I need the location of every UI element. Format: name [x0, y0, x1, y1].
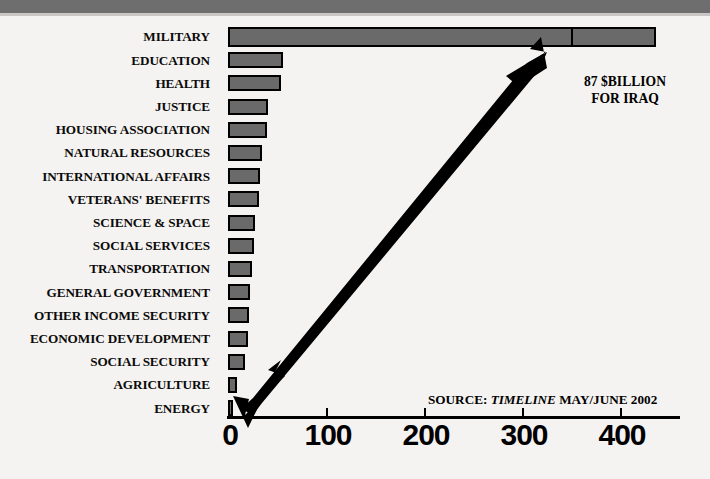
bar-category-label: JUSTICE — [0, 100, 218, 113]
bar-category-label: SCIENCE & SPACE — [0, 216, 218, 229]
bar-category-label: TRANSPORTATION — [0, 262, 218, 275]
bar-category-label: OTHER INCOME SECURITY — [0, 309, 218, 322]
bar-row: ECONOMIC DEVELOPMENT — [0, 328, 710, 350]
bar-transportation — [228, 261, 252, 277]
source-note: SOURCE: TIMELINE MAY/JUNE 2002 — [428, 392, 657, 408]
x-axis-tick — [424, 408, 426, 417]
bar-track — [218, 212, 710, 234]
bar-category-label: GENERAL GOVERNMENT — [0, 286, 218, 299]
bar-track — [218, 235, 710, 257]
top-decorative-band — [0, 0, 710, 13]
bar-economic-development — [228, 331, 248, 347]
bar-veterans-benefits — [228, 191, 259, 207]
bar-track — [218, 119, 710, 141]
chart-page: MILITARYEDUCATIONHEALTHJUSTICEHOUSING AS… — [0, 0, 710, 479]
x-axis-tick — [522, 408, 524, 417]
bar-row: VETERANS' BENEFITS — [0, 188, 710, 210]
source-publication: TIMELINE — [491, 392, 556, 407]
bar-track — [218, 281, 710, 303]
bar-row: INTERNATIONAL AFFAIRS — [0, 165, 710, 187]
iraq-callout-line2: FOR IRAQ — [591, 91, 659, 106]
bar-category-label: VETERANS' BENEFITS — [0, 193, 218, 206]
bar-segment-divider — [571, 29, 573, 45]
bar-category-label: AGRICULTURE — [0, 378, 218, 391]
bar-category-label: EDUCATION — [0, 54, 218, 67]
x-axis-tick — [228, 408, 230, 417]
bar-category-label: NATURAL RESOURCES — [0, 146, 218, 159]
x-axis-tick — [326, 408, 328, 417]
source-prefix: SOURCE: — [428, 392, 491, 407]
bar-row: NATURAL RESOURCES — [0, 142, 710, 164]
bar-science-space — [228, 215, 255, 231]
bar-track — [218, 304, 710, 326]
bar-row: SCIENCE & SPACE — [0, 212, 710, 234]
bar-housing-association — [228, 122, 267, 138]
bar-track — [218, 328, 710, 350]
x-axis-tick-label: 400 — [598, 420, 645, 450]
x-axis-tick-label: 100 — [304, 420, 351, 450]
bar-education — [228, 52, 283, 68]
bar-category-label: SOCIAL SERVICES — [0, 239, 218, 252]
bar-track — [218, 351, 710, 373]
bar-track — [218, 258, 710, 280]
bar-social-security — [228, 354, 245, 370]
bar-category-label: MILITARY — [0, 30, 218, 43]
bar-track — [218, 142, 710, 164]
bar-category-label: ENERGY — [0, 402, 218, 415]
x-axis-tick — [620, 408, 622, 417]
source-suffix: MAY/JUNE 2002 — [556, 392, 657, 407]
x-axis-tick-label: 200 — [402, 420, 449, 450]
bar-category-label: HEALTH — [0, 77, 218, 90]
bar-row: SOCIAL SERVICES — [0, 235, 710, 257]
bar-row: GENERAL GOVERNMENT — [0, 281, 710, 303]
bar-category-label: SOCIAL SECURITY — [0, 355, 218, 368]
bar-track — [218, 188, 710, 210]
x-axis-tick-label: 0 — [222, 420, 238, 450]
bar-other-income-security — [228, 307, 249, 323]
bar-social-services — [228, 238, 254, 254]
bar-row: TRANSPORTATION — [0, 258, 710, 280]
bar-category-label: HOUSING ASSOCIATION — [0, 123, 218, 136]
bar-track — [218, 165, 710, 187]
bar-row: OTHER INCOME SECURITY — [0, 304, 710, 326]
bar-justice — [228, 99, 268, 115]
bar-category-label: INTERNATIONAL AFFAIRS — [0, 170, 218, 183]
bar-natural-resources — [228, 145, 262, 161]
bar-health — [228, 75, 281, 91]
bar-military — [228, 27, 656, 47]
bar-agriculture — [228, 377, 237, 393]
bar-row: SOCIAL SECURITY — [0, 351, 710, 373]
bar-track — [218, 49, 710, 71]
bar-general-government — [228, 284, 250, 300]
bar-row: HOUSING ASSOCIATION — [0, 119, 710, 141]
x-axis-tick-label: 300 — [500, 420, 547, 450]
bar-international-affairs — [228, 168, 260, 184]
bar-track — [218, 26, 710, 48]
bar-row: MILITARY — [0, 26, 710, 48]
iraq-callout-line1: 87 $BILLION — [584, 74, 666, 89]
iraq-supplement-callout: 87 $BILLION FOR IRAQ — [565, 74, 685, 108]
bar-row: EDUCATION — [0, 49, 710, 71]
bar-category-label: ECONOMIC DEVELOPMENT — [0, 332, 218, 345]
bar-chart-plot-area: MILITARYEDUCATIONHEALTHJUSTICEHOUSING AS… — [0, 16, 710, 479]
